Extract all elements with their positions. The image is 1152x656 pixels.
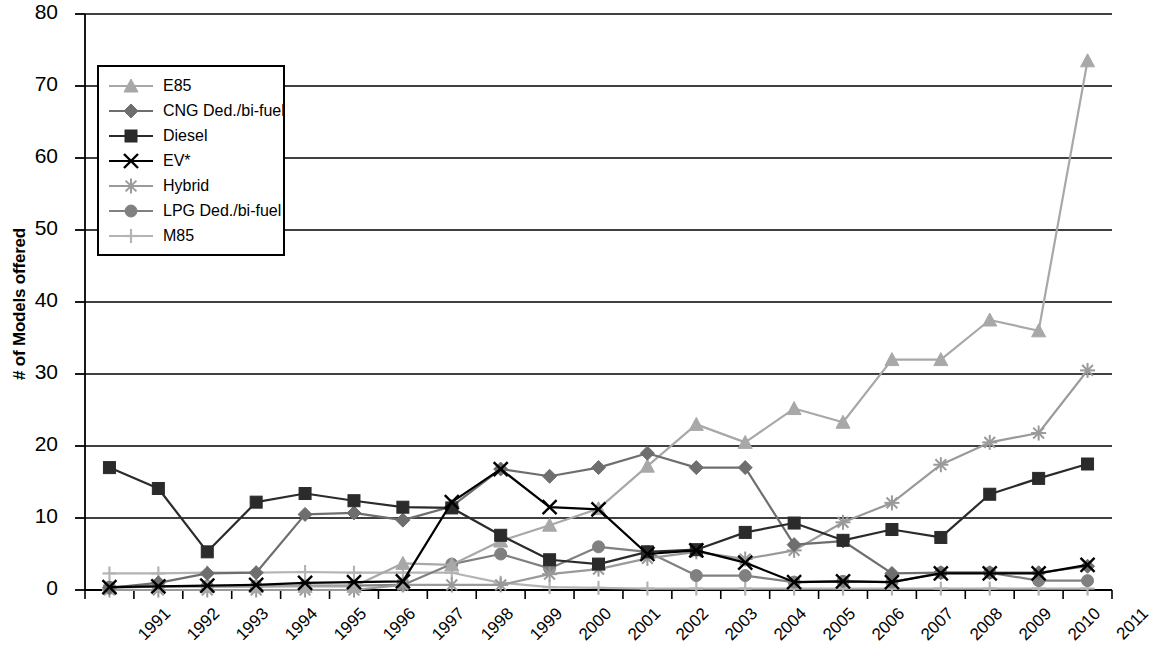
data-point-square [1033,472,1045,484]
data-point-diamond [640,446,654,460]
legend-label: E85 [163,77,191,95]
data-point-diamond [543,469,557,483]
data-point-square [103,462,115,474]
data-point-square [984,488,996,500]
data-point-square [1082,458,1094,470]
data-point-square [544,554,556,566]
data-point-square [201,546,213,558]
data-point-plus [592,581,606,595]
legend-marker-triangle-icon [107,76,155,96]
data-point-plus [934,582,948,596]
legend-marker-plus-icon [107,226,155,246]
legend-label: EV* [163,152,191,170]
legend-item-hybrid[interactable]: Hybrid [107,173,271,198]
data-point-asterisk [982,435,997,450]
legend-label: Diesel [163,127,207,145]
legend-marker-cross-icon [107,151,155,171]
data-point-square [886,524,898,536]
data-point-asterisk [444,577,459,592]
legend-label: M85 [163,227,194,245]
data-point-square [935,531,947,543]
data-point-triangle [1081,54,1095,67]
data-point-diamond [396,513,410,527]
data-point-diamond [592,461,606,475]
data-point-diamond [200,566,214,580]
data-point-plus [543,580,557,594]
data-point-circle [593,541,605,553]
data-point-plus [689,582,703,596]
data-point-asterisk [884,495,899,510]
data-point-asterisk [542,567,557,582]
data-point-triangle [983,313,997,326]
legend-item-e85[interactable]: E85 [107,73,271,98]
data-point-plus [738,582,752,596]
data-point-square [593,558,605,570]
data-point-square [739,526,751,538]
data-point-square [837,534,849,546]
legend-label: LPG Ded./bi-fuel [163,202,281,220]
data-point-plus [102,566,116,580]
legend-item-diesel[interactable]: Diesel [107,123,271,148]
data-point-triangle [689,417,703,430]
data-point-square [641,546,653,558]
legend-label: Hybrid [163,177,209,195]
data-point-plus [124,229,138,243]
legend-item-ev-[interactable]: EV* [107,148,271,173]
data-point-asterisk [124,178,139,193]
data-point-square [397,501,409,513]
data-point-asterisk [1080,363,1095,378]
legend-marker-diamond-icon [107,101,155,121]
data-point-square [348,495,360,507]
data-point-triangle [787,402,801,415]
data-point-square [125,130,137,142]
data-point-plus [640,582,654,596]
data-point-asterisk [836,515,851,530]
data-point-diamond [689,461,703,475]
legend-item-cng-ded-bi-fuel[interactable]: CNG Ded./bi-fuel [107,98,271,123]
data-point-diamond [124,104,138,118]
chart-legend: E85CNG Ded./bi-fuelDieselEV*HybridLPG De… [97,65,285,256]
data-point-circle [1082,575,1094,587]
legend-marker-asterisk-icon [107,176,155,196]
data-point-square [250,496,262,508]
legend-label: CNG Ded./bi-fuel [163,102,285,120]
data-point-circle [739,570,751,582]
data-point-circle [495,548,507,560]
data-point-triangle [738,435,752,448]
data-point-square [495,529,507,541]
data-point-asterisk [1031,426,1046,441]
data-point-square [299,488,311,500]
data-point-asterisk [493,577,508,592]
legend-marker-circle-icon [107,201,155,221]
data-point-plus [983,582,997,596]
data-point-square [788,517,800,529]
data-point-diamond [738,461,752,475]
legend-item-m85[interactable]: M85 [107,223,271,248]
data-point-asterisk [933,457,948,472]
legend-item-lpg-ded-bi-fuel[interactable]: LPG Ded./bi-fuel [107,198,271,223]
legend-marker-square-icon [107,126,155,146]
data-point-square [152,482,164,494]
data-point-circle [690,570,702,582]
data-point-circle [125,205,137,217]
